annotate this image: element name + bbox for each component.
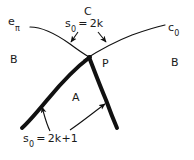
label-region-a: A xyxy=(72,92,80,103)
annotation-even-value: 2k xyxy=(90,17,104,30)
annotation-s0-odd: s0=2k+1 xyxy=(23,133,78,147)
annotation-even-subscript: 0 xyxy=(71,25,76,34)
label-e-pi-subscript: π xyxy=(15,24,20,33)
label-region-b-left: B xyxy=(10,54,18,65)
label-e-pi-base: e xyxy=(8,15,15,28)
arrow-odd-right xyxy=(70,104,105,130)
arrow-odd-left xyxy=(42,107,50,131)
annotation-even-relation: = xyxy=(76,17,89,30)
label-c0-subscript: 0 xyxy=(174,29,179,38)
diagram-figure: eπ C s0=2k c0 B B P A s0=2k+1 xyxy=(0,0,194,160)
annotation-odd-relation: = xyxy=(34,132,47,145)
label-point-p: P xyxy=(102,58,109,69)
label-region-b-right: B xyxy=(171,57,179,68)
annotation-s0-even: s0=2k xyxy=(65,18,103,32)
arrow-even-right xyxy=(98,32,106,42)
label-curve-e-pi: eπ xyxy=(8,16,20,30)
annotation-odd-subscript: 0 xyxy=(29,140,34,149)
label-curve-c0: c0 xyxy=(168,22,180,36)
label-curve-c: C xyxy=(84,6,92,17)
annotation-odd-value: 2k+1 xyxy=(48,132,78,145)
